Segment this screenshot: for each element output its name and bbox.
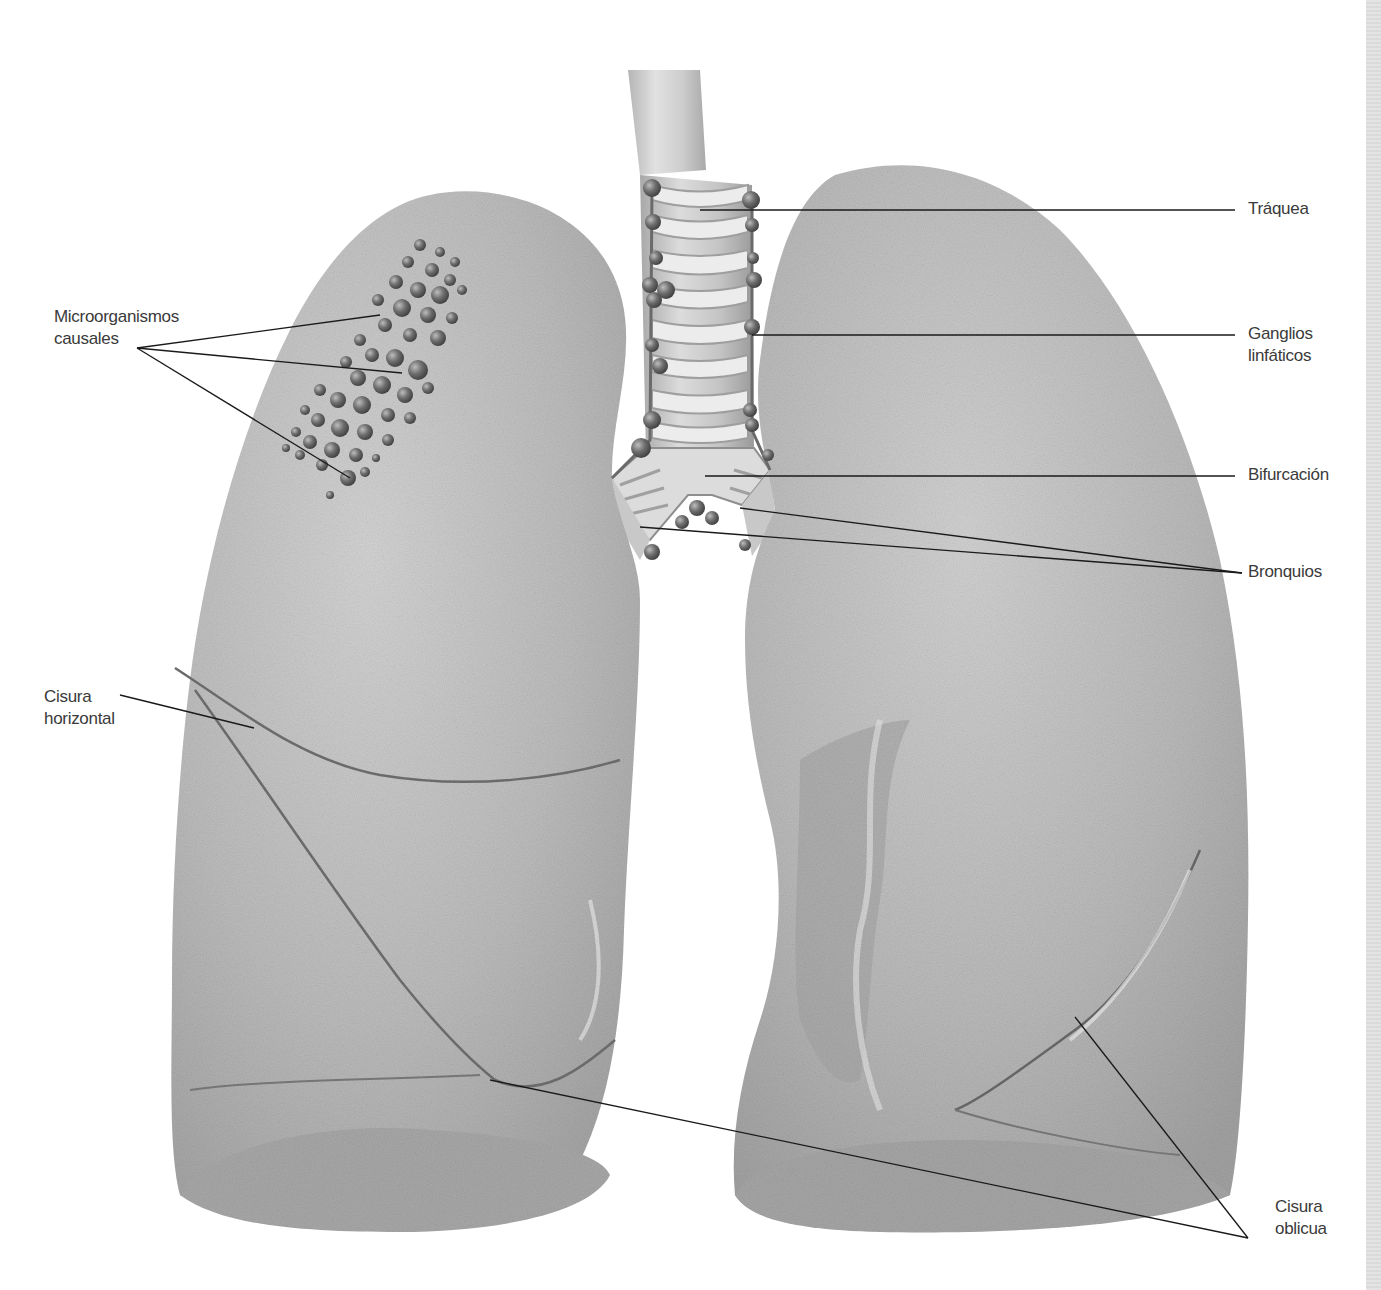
lung-anatomy-diagram: Microorganismos causales Cisura horizont… [0,0,1381,1290]
label-bronquios: Bronquios [1248,561,1322,583]
label-cisura-horizontal: Cisura horizontal [44,686,115,730]
label-line: Microorganismos [54,306,179,328]
label-microorganismos-causales: Microorganismos causales [54,306,179,350]
illustration [0,0,1381,1290]
label-line: Cisura [1275,1196,1327,1218]
label-line: Ganglios [1248,323,1313,345]
label-line: Bronquios [1248,561,1322,583]
label-cisura-oblicua: Cisura oblicua [1275,1196,1327,1240]
label-line: horizontal [44,708,115,730]
lung-left-patient [734,165,1249,1232]
label-line: Bifurcación [1248,464,1329,486]
label-line: linfáticos [1248,345,1313,367]
page-edge-strip [1366,0,1381,1290]
trachea [604,70,776,560]
label-line: oblicua [1275,1218,1327,1240]
label-line: Tráquea [1248,198,1309,220]
lung-right-patient [171,191,640,1232]
label-bifurcacion: Bifurcación [1248,464,1329,486]
label-line: Cisura [44,686,115,708]
label-ganglios-linfaticos: Ganglios linfáticos [1248,323,1313,367]
label-line: causales [54,328,179,350]
label-traquea: Tráquea [1248,198,1309,220]
